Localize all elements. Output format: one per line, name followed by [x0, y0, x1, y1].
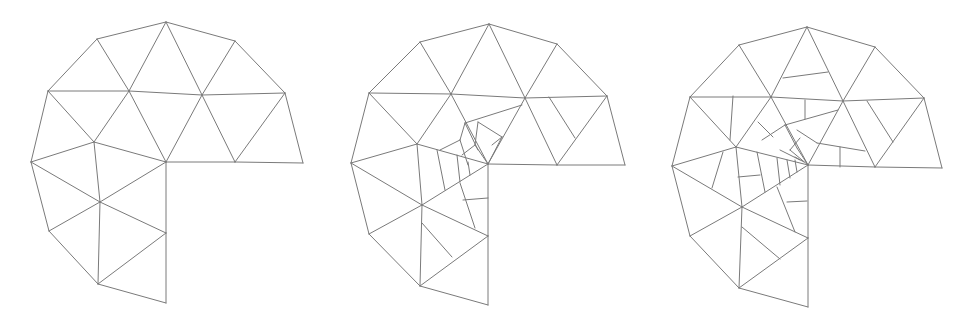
mesh-edge: [690, 207, 742, 236]
mesh-edge: [672, 97, 690, 166]
refinement-edge: [742, 227, 780, 259]
refinement-edge: [757, 152, 765, 192]
mesh-edge: [924, 98, 942, 168]
mesh-edge: [736, 97, 771, 147]
mesh-edge: [690, 236, 739, 288]
refinement-edge: [712, 152, 723, 188]
mesh-edge: [875, 98, 924, 167]
mesh-edge: [739, 45, 771, 97]
mesh-edge: [843, 47, 875, 101]
mesh-edge: [875, 167, 942, 168]
refinement-edge: [817, 143, 865, 151]
refinement-edge: [777, 158, 780, 185]
mesh-edge: [807, 27, 875, 47]
refinement-edge: [785, 125, 797, 148]
mesh-edge: [875, 47, 924, 98]
mesh-edge: [672, 147, 736, 166]
refinement-edge: [785, 110, 838, 125]
refinement-edge: [762, 125, 785, 140]
refinement-edge: [787, 201, 807, 202]
refinement-edge: [797, 130, 817, 143]
refinement-edge: [738, 175, 760, 177]
mesh-edge: [771, 27, 807, 97]
mesh-edge: [739, 207, 742, 288]
refinement-edge: [783, 72, 828, 78]
mesh-edge: [807, 27, 843, 101]
mesh-edge: [771, 97, 843, 101]
mesh-edge: [672, 166, 742, 207]
mesh-refinement-figure: [0, 0, 973, 321]
refinement-edge: [867, 101, 893, 142]
mesh-edge: [843, 98, 924, 101]
mesh-edge: [843, 101, 875, 167]
mesh-edge: [690, 97, 736, 147]
mesh-edge: [739, 288, 808, 307]
mesh-edge: [742, 207, 808, 238]
mesh-edge: [672, 166, 690, 236]
mesh-edge: [739, 238, 808, 288]
refinement-edge: [730, 96, 733, 140]
mesh-edge: [742, 165, 808, 207]
mesh-edge: [690, 45, 739, 97]
mesh-edge: [808, 165, 875, 167]
mesh-refined-2-panel: [0, 0, 973, 321]
mesh-edge: [739, 27, 807, 45]
refinement-edge: [787, 160, 790, 178]
mesh-edge: [808, 101, 843, 165]
